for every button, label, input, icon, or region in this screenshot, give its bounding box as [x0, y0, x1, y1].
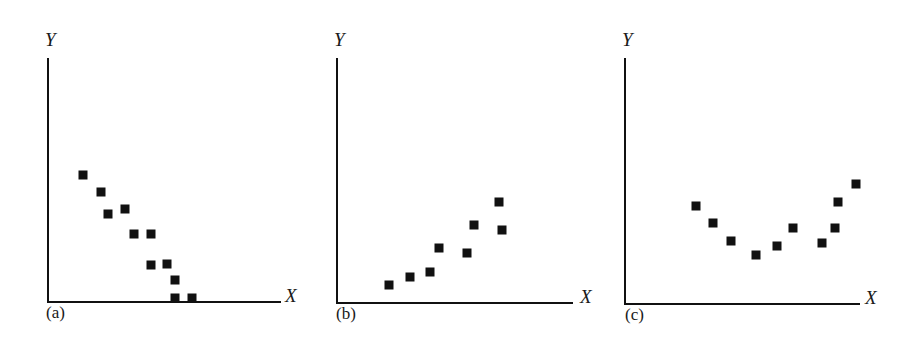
data-point-marker [727, 237, 736, 246]
data-point-marker [789, 224, 798, 233]
data-point-marker [495, 198, 504, 207]
y-axis-label-b: Y [334, 29, 347, 50]
data-point-marker [470, 221, 479, 230]
data-point-marker [435, 244, 444, 253]
data-point-marker [97, 188, 106, 197]
data-point-marker [818, 239, 827, 248]
panel-label-c: (c) [625, 305, 644, 324]
data-point-marker [171, 276, 180, 285]
data-point-marker [773, 242, 782, 251]
data-point-marker [709, 219, 718, 228]
data-points-c [692, 180, 861, 260]
data-point-marker [692, 202, 701, 211]
scatter-figure: Y X (a) Y X (b) Y X (c) [0, 0, 919, 344]
panel-c: Y X (c) [622, 29, 878, 324]
panel-a: Y X (a) [45, 29, 298, 322]
data-point-marker [130, 230, 139, 239]
data-point-marker [406, 273, 415, 282]
data-point-marker [121, 205, 130, 214]
data-point-marker [463, 249, 472, 258]
x-axis-label-a: X [284, 285, 298, 306]
data-point-marker [831, 224, 840, 233]
data-point-marker [498, 226, 507, 235]
panel-label-b: (b) [336, 304, 356, 323]
data-point-marker [426, 268, 435, 277]
data-point-marker [834, 198, 843, 207]
data-point-marker [163, 260, 172, 269]
data-points-b [385, 198, 507, 290]
data-points-a [79, 171, 197, 303]
data-point-marker [171, 294, 180, 303]
data-point-marker [385, 281, 394, 290]
data-point-marker [752, 251, 761, 260]
x-axis-label-b: X [579, 286, 593, 307]
data-point-marker [79, 171, 88, 180]
y-axis-label-c: Y [622, 29, 635, 50]
data-point-marker [147, 230, 156, 239]
x-axis-label-c: X [864, 287, 878, 308]
panel-b: Y X (b) [334, 29, 593, 323]
data-point-marker [188, 294, 197, 303]
y-axis-label-a: Y [45, 29, 58, 50]
data-point-marker [147, 261, 156, 270]
data-point-marker [852, 180, 861, 189]
data-point-marker [104, 210, 113, 219]
panel-label-a: (a) [46, 303, 65, 322]
